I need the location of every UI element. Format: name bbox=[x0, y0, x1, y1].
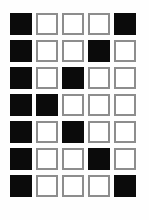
grid-cell-filled bbox=[36, 94, 58, 116]
grid-cell-empty bbox=[36, 175, 58, 197]
grid-cell-filled bbox=[88, 148, 110, 170]
grid-cell-filled bbox=[10, 148, 32, 170]
grid-cell-filled bbox=[114, 13, 136, 35]
grid-cell-filled bbox=[10, 94, 32, 116]
grid-cell-empty bbox=[88, 121, 110, 143]
grid-cell-empty bbox=[114, 67, 136, 89]
grid-cell-empty bbox=[36, 40, 58, 62]
grid-cell-filled bbox=[10, 40, 32, 62]
grid-cell-filled bbox=[62, 121, 84, 143]
grid-canvas bbox=[0, 0, 149, 220]
grid-cell-empty bbox=[36, 67, 58, 89]
grid-cell-filled bbox=[114, 175, 136, 197]
grid-cell-filled bbox=[88, 40, 110, 62]
grid-cell-empty bbox=[62, 175, 84, 197]
grid-cell-empty bbox=[88, 94, 110, 116]
grid-cell-empty bbox=[36, 13, 58, 35]
grid-cell-empty bbox=[36, 148, 58, 170]
grid-cell-filled bbox=[10, 121, 32, 143]
grid-cell-empty bbox=[114, 40, 136, 62]
grid-cell-empty bbox=[88, 13, 110, 35]
square-grid bbox=[10, 13, 136, 197]
grid-cell-filled bbox=[10, 67, 32, 89]
grid-cell-empty bbox=[88, 175, 110, 197]
grid-cell-empty bbox=[114, 94, 136, 116]
grid-cell-empty bbox=[114, 148, 136, 170]
grid-cell-filled bbox=[62, 67, 84, 89]
grid-cell-empty bbox=[62, 148, 84, 170]
grid-cell-empty bbox=[62, 40, 84, 62]
grid-cell-empty bbox=[62, 94, 84, 116]
grid-cell-filled bbox=[10, 13, 32, 35]
grid-cell-empty bbox=[36, 121, 58, 143]
grid-cell-filled bbox=[10, 175, 32, 197]
grid-cell-empty bbox=[114, 121, 136, 143]
grid-cell-empty bbox=[62, 13, 84, 35]
grid-cell-empty bbox=[88, 67, 110, 89]
